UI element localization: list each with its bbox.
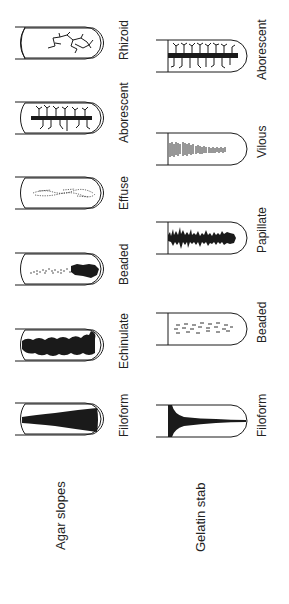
label-agar-effuse: Effuse [117,176,131,210]
label-agar-rhizoid: Rhizoid [117,20,131,60]
label-gelatin-beaded: Beaded [255,302,269,343]
gelatin-filoform-tube [156,404,248,438]
gelatin-vilous-tube [156,132,248,166]
label-gelatin-vilous: Vilous [255,126,269,158]
label-agar-beaded: Beaded [117,244,131,285]
label-agar-aborescent: Aborescent [117,82,131,143]
group-title-gelatin-stab: Gelatin stab [193,483,208,552]
gelatin-papillate-tube [156,221,248,255]
agar-beaded-tube [15,252,105,286]
agar-effuse-tube [15,176,105,210]
agar-echinulate-tube [15,327,105,363]
label-gelatin-aborescent: Aborescent [255,19,269,80]
label-agar-filoform: Filoform [117,394,131,437]
label-agar-echinulate: Echinulate [117,313,131,369]
gelatin-beaded-tube [156,312,248,346]
label-gelatin-filoform: Filoform [255,394,269,437]
agar-aborescent-tube [15,101,105,135]
group-title-agar-slopes: Agar slopes [53,481,68,550]
gelatin-aborescent-tube [156,39,248,73]
agar-filoform-tube [15,401,105,437]
agar-rhizoid-tube [15,26,105,60]
label-gelatin-papillate: Papillate [255,207,269,253]
